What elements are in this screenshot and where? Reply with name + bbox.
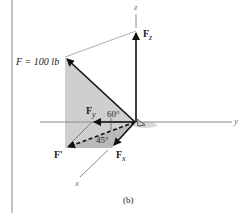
force-magnitude-label: F = 100 lb — [16, 57, 59, 67]
force-label-text: F = 100 lb — [16, 56, 59, 67]
fx-sub: x — [122, 154, 126, 163]
x-axis — [80, 150, 108, 177]
y-axis-label: y — [234, 117, 238, 126]
z-axis-label: z — [134, 3, 138, 12]
angle-45-label: 45° — [96, 136, 109, 145]
fx-label: Fx — [116, 150, 126, 160]
fy-sub: y — [92, 110, 96, 119]
fy-label: Fy — [86, 106, 96, 116]
figure-caption: (b) — [123, 196, 134, 205]
force-diagram — [0, 0, 245, 213]
angle-60-label: 60° — [107, 110, 120, 119]
fz-label: Fz — [143, 29, 152, 39]
construction-line — [65, 31, 136, 57]
fz-sub: z — [149, 33, 152, 42]
x-axis-label: x — [75, 179, 79, 188]
fprime-label: F' — [54, 150, 63, 160]
